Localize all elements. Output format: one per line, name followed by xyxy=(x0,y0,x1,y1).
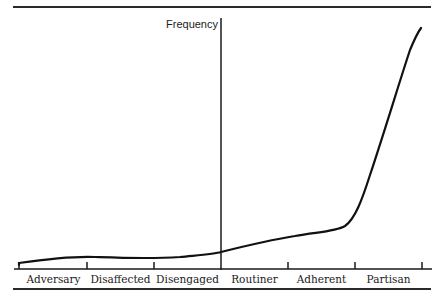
category-label-disengaged: Disengaged xyxy=(154,273,221,285)
category-label-disaffected: Disaffected xyxy=(87,273,154,285)
category-label-adversary: Adversary xyxy=(20,273,87,285)
category-label-partisan: Partisan xyxy=(355,273,422,285)
frequency-curve-plot xyxy=(0,0,444,300)
category-label-adherent: Adherent xyxy=(288,273,355,285)
y-axis-label: Frequency xyxy=(166,18,218,30)
category-label-routiner: Routiner xyxy=(221,273,288,285)
frequency-curve xyxy=(19,28,421,265)
bottom-rule xyxy=(13,288,431,290)
